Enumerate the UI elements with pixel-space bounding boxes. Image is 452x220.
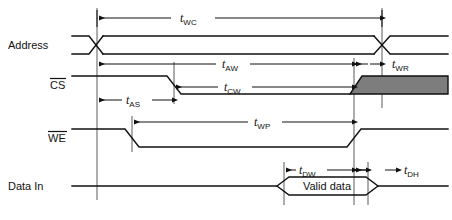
twp-label: tWP — [254, 115, 270, 131]
dimension-tdw: tDW — [286, 163, 352, 179]
dimension-twp: tWP — [134, 115, 352, 131]
timing-diagram-root: Address CS WE Data In — [0, 0, 452, 220]
twr-label-sub: WR — [395, 64, 409, 73]
cs-trace — [72, 76, 350, 94]
signal-label-data-in: Data In — [8, 180, 43, 192]
twr-label: tWR — [392, 57, 409, 73]
signal-label-address: Address — [8, 39, 49, 51]
signal-label-we-group: WE — [48, 132, 67, 145]
twc-label: tWC — [180, 11, 197, 27]
address-bus-left-top — [72, 36, 103, 54]
dimension-taw: tAW — [99, 57, 352, 73]
tdh-label: tDH — [404, 163, 419, 179]
tdw-label: tDW — [299, 163, 316, 179]
address-bus-right-bottom — [374, 36, 448, 54]
taw-label: tAW — [222, 57, 238, 73]
dimension-tdh: tDH — [356, 163, 419, 179]
dimension-tcw: tCW — [176, 80, 352, 96]
timing-diagram-canvas: Address CS WE Data In — [0, 0, 452, 220]
data-in-valid-label: Valid data — [303, 180, 352, 192]
waveform-address — [72, 36, 448, 54]
waveform-cs — [72, 76, 448, 94]
signal-label-cs-group: CS — [50, 79, 66, 92]
tcw-label: tCW — [224, 80, 241, 96]
waveform-we — [72, 129, 448, 147]
tas-label: tAS — [126, 93, 140, 109]
address-bus-right-top — [374, 36, 448, 54]
twc-label-sub: WC — [183, 18, 197, 27]
tcw-label-sub: CW — [227, 87, 241, 96]
we-trace — [72, 129, 448, 147]
tdh-label-sub: DH — [407, 170, 419, 179]
dimension-tas: tAS — [99, 93, 172, 109]
cs-dont-care-block — [350, 76, 448, 94]
address-bus-left-bottom — [72, 36, 103, 54]
tas-label-sub: AS — [129, 100, 140, 109]
signal-labels: Address CS WE Data In — [8, 39, 67, 192]
waveform-data-in: Valid data — [72, 177, 448, 195]
taw-label-sub: AW — [225, 64, 238, 73]
signal-label-we: WE — [48, 132, 66, 144]
dimension-twc: tWC — [97, 10, 382, 27]
signal-label-cs: CS — [50, 79, 65, 91]
twp-label-sub: WP — [257, 122, 270, 131]
